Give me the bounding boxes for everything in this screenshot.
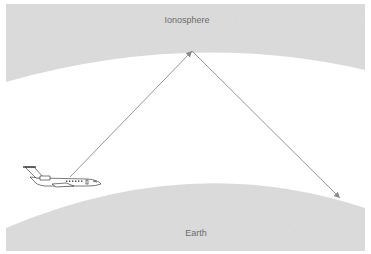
- earth-layer: [6, 183, 365, 251]
- signal-path-down: [192, 51, 340, 198]
- aircraft-icon: [23, 167, 101, 187]
- earth-label: Earth: [185, 228, 207, 238]
- signal-path-up: [70, 51, 192, 177]
- skywave-diagram: Ionosphere Earth: [0, 0, 371, 254]
- ionosphere-label: Ionosphere: [164, 15, 209, 25]
